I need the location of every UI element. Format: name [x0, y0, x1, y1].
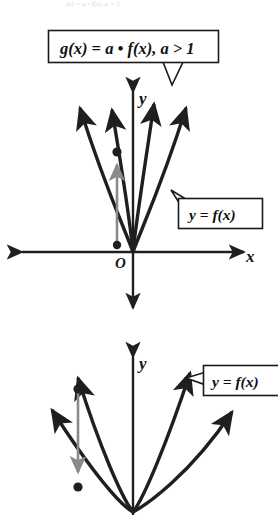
callout-f-top: y = f(x) [171, 190, 263, 229]
top-panel: x y O g(x) = a • f(x), a > 1 y = f(x) [22, 31, 263, 309]
narrow-parabola-bottom-left [78, 378, 133, 512]
bottom-panel: y y = f(x) [52, 354, 278, 515]
callout-text-f-bottom: y = f(x) [210, 373, 259, 391]
narrow-stretched-parabola-left [112, 110, 133, 252]
stretch-arrow-end-point [112, 147, 121, 156]
cropped-header-text: (x) = a • f(x), a > 1 [66, 0, 120, 8]
stretch-arrow-start-point [113, 241, 121, 249]
callout-text-g: g(x) = a • f(x), a > 1 [59, 39, 195, 58]
callout-tail-g [163, 62, 183, 85]
compress-arrow-end-point [73, 482, 82, 491]
transformation-figure: (x) = a • f(x), a > 1 x y O [0, 0, 278, 515]
wide-parabola-bottom-right [133, 412, 232, 512]
compress-arrow-start-point [73, 384, 82, 393]
wide-parent-parabola-right [133, 108, 186, 252]
callout-f-bottom: y = f(x) [186, 366, 278, 396]
callout-g-definition: g(x) = a • f(x), a > 1 [49, 31, 219, 86]
y-axis-label-top: y [137, 89, 147, 108]
wide-parent-parabola-left [80, 108, 133, 252]
origin-label: O [115, 255, 126, 271]
x-axis-label: x [245, 247, 255, 266]
callout-text-f-top: y = f(x) [187, 206, 236, 224]
y-axis-label-bottom: y [137, 354, 147, 373]
